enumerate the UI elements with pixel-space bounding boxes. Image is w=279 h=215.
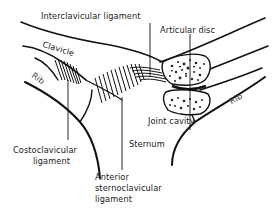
interclavicular-ligament-bands: [130, 67, 166, 82]
label-interclavicular-ligament: Interclavicular ligament: [41, 12, 140, 22]
rib-left-inner: [80, 90, 92, 122]
label-costoclavicular-line2: ligament: [33, 157, 70, 167]
label-anterior-sc-line3: ligament: [95, 195, 132, 205]
sternoclavicular-joint-diagram: Interclavicular ligament Articular disc …: [0, 0, 279, 215]
sternum-manubrium: [164, 90, 210, 115]
label-sternum: Sternum: [129, 140, 165, 150]
label-anterior-sc-line1: Anterior: [95, 173, 129, 183]
label-articular-disc: Articular disc: [160, 26, 215, 36]
label-costoclavicular-line1: Costoclavicular: [13, 146, 77, 156]
anterior-sc-hatching: [95, 64, 144, 103]
clavicle-medial-end: [162, 54, 210, 85]
label-joint-cavity: Joint cavity: [148, 117, 195, 127]
label-anterior-sc-line2: sternoclavicular: [95, 184, 162, 194]
articular-disc: [172, 86, 206, 89]
